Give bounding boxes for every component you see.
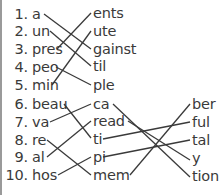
word-end: ute bbox=[93, 23, 116, 39]
word-middle: ti bbox=[93, 131, 102, 147]
item-number: 6. bbox=[0, 96, 28, 112]
connector-line bbox=[58, 157, 91, 175]
item-number: 3. bbox=[0, 41, 28, 57]
word-start: va bbox=[32, 114, 49, 130]
word-start: peo bbox=[32, 59, 58, 75]
item-number: 2. bbox=[0, 23, 28, 39]
word-end: ber bbox=[192, 96, 216, 112]
word-middle: read bbox=[93, 113, 125, 129]
item-number: 8. bbox=[0, 132, 28, 148]
item-number: 10. bbox=[0, 167, 28, 183]
word-end: tion bbox=[192, 168, 219, 184]
connector-line bbox=[103, 140, 190, 157]
item-number: 1. bbox=[0, 6, 28, 22]
word-matching-worksheet: 1. a 2. un 3. pres 4. peo 5. min ents ut… bbox=[0, 0, 224, 195]
word-end: ents bbox=[93, 5, 124, 21]
item-number: 7. bbox=[0, 114, 28, 130]
word-start: re bbox=[32, 132, 46, 148]
word-end: ple bbox=[93, 77, 115, 93]
word-start: beau bbox=[32, 96, 67, 112]
item-number: 4. bbox=[0, 59, 28, 75]
word-end: tal bbox=[192, 132, 210, 148]
item-number: 5. bbox=[0, 77, 28, 93]
word-end: ful bbox=[192, 114, 210, 130]
word-start: hos bbox=[32, 167, 57, 183]
word-end: gainst bbox=[93, 41, 136, 57]
word-end: y bbox=[192, 150, 200, 166]
connector-line bbox=[130, 104, 190, 175]
connector-line bbox=[47, 121, 91, 157]
word-start: un bbox=[32, 23, 50, 39]
item-number: 9. bbox=[0, 149, 28, 165]
connector-line bbox=[64, 104, 91, 138]
word-middle: pi bbox=[93, 149, 106, 165]
word-middle: ca bbox=[93, 96, 109, 112]
word-start: pres bbox=[32, 41, 63, 57]
word-start: al bbox=[32, 149, 45, 165]
word-end: til bbox=[93, 58, 106, 74]
word-middle: mem bbox=[93, 167, 130, 183]
word-start: a bbox=[32, 6, 41, 22]
word-start: min bbox=[32, 77, 59, 93]
connector-line bbox=[56, 67, 91, 85]
